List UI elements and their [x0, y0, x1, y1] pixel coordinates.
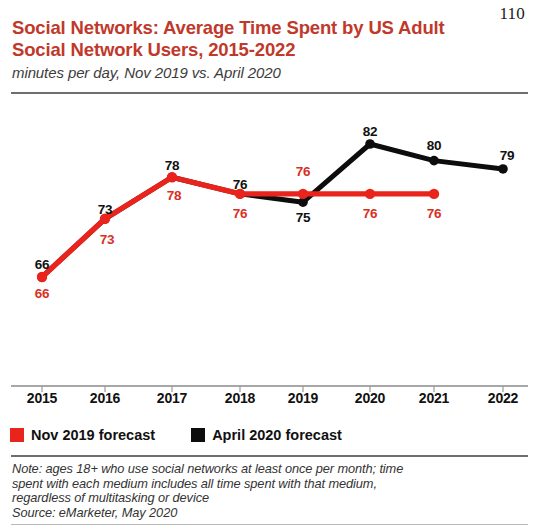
data-point-label: 79 [500, 148, 515, 163]
x-axis-tick-label-2019: 2019 [288, 390, 318, 406]
data-point-label: 78 [167, 188, 182, 203]
footnote-line-3: regardless of multitasking or device [12, 491, 517, 506]
chart-title: Social Networks: Average Time Spent by U… [12, 17, 492, 61]
data-point-label: 73 [100, 232, 115, 247]
legend-swatch-black [191, 428, 205, 442]
x-axis-tick-label-2018: 2018 [225, 390, 255, 406]
data-point-label: 76 [233, 177, 248, 192]
chart-plot-area: 667378767582807966737876767676 [0, 96, 539, 396]
page-bottom-divider [11, 524, 528, 525]
series-data-point [167, 172, 177, 182]
series-data-point [37, 272, 47, 282]
page-number: 110 [500, 4, 525, 24]
x-axis-tick-labels: 20152016201720182019202020212022 [0, 390, 539, 414]
x-axis-tick-label-2022: 2022 [488, 390, 518, 406]
series-data-point [365, 189, 375, 199]
x-axis-tick-label-2016: 2016 [90, 390, 120, 406]
footnote-line-2: spent with each medium includes all time… [12, 477, 517, 492]
footnote-source: Source: eMarketer, May 2020 [12, 506, 517, 521]
series-data-point [498, 164, 508, 174]
data-point-label: 76 [363, 206, 378, 221]
header-divider [11, 92, 528, 94]
legend-label: Nov 2019 forecast [31, 427, 155, 443]
x-axis-tick-label-2017: 2017 [157, 390, 187, 406]
chart-footnote: Note: ages 18+ who use social networks a… [12, 462, 517, 520]
footnote-line-1: Note: ages 18+ who use social networks a… [12, 462, 517, 477]
series-data-point [429, 189, 439, 199]
data-point-label: 76 [233, 206, 248, 221]
data-point-label: 76 [296, 164, 311, 179]
legend-item-april-2020[interactable]: April 2020 forecast [191, 427, 342, 443]
footnote-divider [11, 455, 528, 457]
x-axis-tick-label-2020: 2020 [355, 390, 385, 406]
data-point-label: 76 [427, 206, 442, 221]
data-point-label: 80 [427, 138, 442, 153]
legend-item-nov-2019[interactable]: Nov 2019 forecast [10, 427, 155, 443]
data-point-label: 82 [363, 124, 378, 139]
data-point-label: 66 [35, 286, 50, 301]
data-point-label: 75 [296, 210, 311, 225]
series-data-point [298, 189, 308, 199]
x-axis-tick-label-2015: 2015 [27, 390, 57, 406]
legend-swatch-red [10, 428, 24, 442]
data-point-label: 66 [35, 257, 50, 272]
data-point-label: 73 [98, 202, 113, 217]
chart-subtitle: minutes per day, Nov 2019 vs. April 2020 [12, 64, 281, 81]
line-chart-svg [0, 96, 539, 396]
series-data-point [365, 139, 375, 149]
x-axis-tick-label-2021: 2021 [419, 390, 449, 406]
chart-legend: Nov 2019 forecastApril 2020 forecast [10, 427, 342, 443]
series-data-point [429, 156, 439, 166]
data-point-label: 78 [165, 158, 180, 173]
legend-label: April 2020 forecast [212, 427, 342, 443]
